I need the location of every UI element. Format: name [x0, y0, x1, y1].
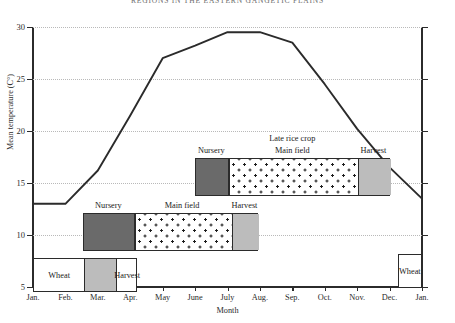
x-tick-label: Aug. [252, 293, 268, 302]
x-tick-label: Nov. [349, 293, 365, 302]
x-tick-label: Sep. [285, 293, 300, 302]
wheat-left-label: Wheat [48, 270, 70, 279]
x-axis-title: Month [0, 306, 455, 315]
wheat-right-box: Wheat [398, 254, 422, 288]
x-tick-label: June [187, 293, 202, 302]
y-axis-title: Mean temperature (C°) [6, 74, 15, 150]
early-rice-crop-bar [83, 213, 258, 251]
early-divider-2 [232, 214, 233, 250]
early-divider-1 [134, 214, 135, 250]
y-tick-label: 30 [17, 22, 26, 32]
y-tick-label: 25 [17, 74, 26, 84]
figure-title: REGIONS IN THE EASTERN GANGETIC PLAINS [0, 0, 455, 3]
x-tick-label: July [221, 293, 235, 302]
x-tick-label: Dec. [382, 293, 397, 302]
x-tick-label: May [155, 293, 170, 302]
y-tick-label: 15 [17, 178, 26, 188]
y-tick-label: 20 [17, 126, 26, 136]
late-harvest-label: Harvest [360, 146, 386, 155]
late-rice-crop-bar [195, 158, 390, 196]
late-nursery-label: Nursery [198, 146, 225, 155]
late-main-field-segment [228, 159, 358, 195]
late-nursery-segment [196, 159, 228, 195]
y-tick-right [422, 131, 428, 132]
wheat-left-box: Wheat Harvest [33, 258, 137, 292]
x-tick-label: Jan. [415, 293, 428, 302]
chart-figure: REGIONS IN THE EASTERN GANGETIC PLAINS M… [0, 0, 455, 323]
x-tick-label: Oct. [318, 293, 332, 302]
x-tick-label: Feb. [58, 293, 73, 302]
y-tick-right [422, 183, 428, 184]
y-tick-label: 5 [21, 282, 25, 292]
late-divider-1 [228, 159, 229, 195]
late-harvest-segment [358, 159, 390, 195]
plot-area: 51015202530 Jan.Feb.Mar.Apr.MayJuneJulyA… [33, 27, 422, 287]
y-tick-label: 10 [17, 230, 26, 240]
late-rice-crop-label: Late rice crop [269, 134, 315, 143]
early-harvest-label: Harvest [232, 201, 258, 210]
y-tick-right [422, 79, 428, 80]
y-tick-right [422, 27, 428, 28]
x-tick-label: Apr. [123, 293, 138, 302]
x-tick-label: Jan. [26, 293, 39, 302]
early-main-field-segment [134, 214, 231, 250]
y-tick-right [422, 235, 428, 236]
late-main-field-label: Main field [275, 146, 310, 155]
early-nursery-label: Nursery [95, 201, 122, 210]
early-main-field-label: Main field [165, 201, 200, 210]
x-tick-label: Mar. [90, 293, 105, 302]
early-nursery-segment [84, 214, 134, 250]
wheat-left-harvest-label: Harvest [114, 270, 140, 279]
wheat-left-harvest-segment [84, 259, 116, 291]
wheat-right-label: Wheat [399, 267, 421, 276]
late-divider-2 [358, 159, 359, 195]
early-harvest-segment [232, 214, 260, 250]
x-tick [422, 286, 423, 291]
